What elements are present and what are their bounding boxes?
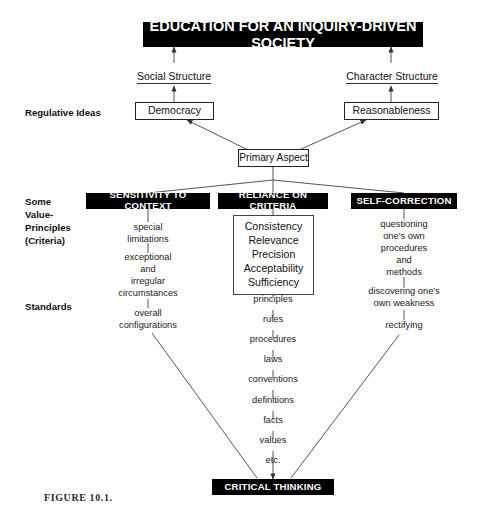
text-line: overall (98, 307, 198, 319)
text-line: irregular (98, 275, 198, 287)
chain-etc: etc. (223, 455, 323, 465)
right-node-discovering-weakness: discovering one's own weakness (349, 285, 459, 309)
box-democracy: Democracy (135, 102, 214, 120)
chain-procedures: procedures (223, 334, 323, 344)
chain-definitions: definitions (223, 395, 323, 405)
text-line: configurations (98, 319, 198, 331)
margin-label-regulative-ideas: Regulative Ideas (25, 107, 135, 120)
box-reasonableness: Reasonableness (344, 102, 439, 120)
criteria-item: Acceptability (242, 262, 305, 276)
social-structure-text: Social Structure (137, 70, 211, 84)
left-node-special-limitations: special limitations (103, 221, 193, 245)
box-primary-aspect: Primary Aspect (238, 149, 309, 167)
text-line: special (103, 221, 193, 233)
text-line: circumstances (98, 287, 198, 299)
criteria-item: Relevance (242, 234, 305, 248)
banner-critical-thinking: CRITICAL THINKING (212, 479, 334, 495)
text-line: methods (354, 266, 454, 278)
text-line: questioning (354, 218, 454, 230)
label-character-structure: Character Structure (341, 66, 443, 84)
text-line: own weakness (349, 297, 459, 309)
right-node-questioning: questioning one's own procedures and met… (354, 218, 454, 278)
margin-line-4: (Criteria) (25, 235, 115, 248)
text-line: rectifying (354, 319, 454, 331)
chain-laws: laws (223, 354, 323, 364)
text-line: procedures (354, 242, 454, 254)
label-social-structure: Social Structure (128, 66, 220, 84)
character-structure-text: Character Structure (346, 70, 438, 84)
chain-rules: rules (223, 314, 323, 324)
text-line: one's own (354, 230, 454, 242)
left-node-overall-configurations: overall configurations (98, 307, 198, 331)
banner-self-correction: SELF-CORRECTION (351, 193, 457, 209)
figure-caption: FIGURE 10.1. (44, 492, 113, 503)
criteria-item: Precision (242, 248, 305, 262)
diagram-canvas: EDUCATION FOR AN INQUIRY-DRIVEN SOCIETY … (0, 0, 479, 521)
margin-line-3: Principles (25, 222, 115, 235)
text-line: exceptional (98, 251, 198, 263)
right-node-rectifying: rectifying (354, 319, 454, 331)
chain-values: values (223, 435, 323, 445)
criteria-item: Sufficiency (242, 276, 305, 290)
text-line: and (98, 263, 198, 275)
left-node-exceptional-circumstances: exceptional and irregular circumstances (98, 251, 198, 299)
text-line: discovering one's (349, 285, 459, 297)
banner-reliance-on-criteria: RELIANCE ON CRITERIA (218, 193, 328, 209)
text-line: limitations (103, 233, 193, 245)
text-line: and (354, 254, 454, 266)
banner-sensitivity-to-context: SENSITIVITY TO CONTEXT (86, 193, 210, 209)
chain-conventions: conventions (223, 374, 323, 384)
criteria-item: Consistency (242, 220, 305, 234)
title-banner: EDUCATION FOR AN INQUIRY-DRIVEN SOCIETY (143, 22, 423, 47)
chain-facts: facts (223, 415, 323, 425)
box-criteria-list: Consistency Relevance Precision Acceptab… (233, 215, 314, 295)
chain-principles: principles (223, 294, 323, 304)
